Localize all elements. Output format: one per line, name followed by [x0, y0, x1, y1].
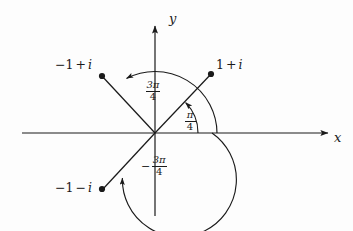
arc-minus-3pi-over-4	[122, 133, 236, 231]
angle-sign: −	[141, 161, 150, 172]
fraction: π 4	[185, 110, 196, 132]
fraction: 3π 4	[146, 80, 161, 102]
point-label-imag: i	[238, 57, 242, 72]
point-label-op: +	[226, 57, 236, 72]
fraction-numerator: 3π	[146, 80, 161, 91]
point-label-one-plus-i: 1+i	[216, 59, 242, 72]
fraction-denominator: 4	[149, 92, 157, 103]
y-axis-label: y	[169, 12, 176, 25]
fraction-numerator: π	[186, 110, 195, 121]
dot-one-plus-i	[208, 71, 214, 77]
dot-minus-one-minus-i	[99, 186, 105, 192]
angle-label-pi-over-4: π 4	[183, 110, 196, 132]
point-label-minus-one-plus-i: −1+i	[55, 59, 92, 72]
fraction-denominator: 4	[155, 167, 163, 178]
angle-label-minus-3pi-over-4: − 3π 4	[141, 155, 167, 177]
fraction-numerator: 3π	[152, 155, 167, 166]
point-label-real: −1	[55, 57, 73, 72]
argand-diagram-figure: y x −1+i 1+i −1−i 3π 4 π 4 − 3π 4	[0, 0, 353, 231]
angle-label-3pi-over-4: 3π 4	[144, 80, 160, 102]
diagram-canvas	[0, 0, 353, 231]
point-label-real: 1	[216, 57, 224, 72]
dot-minus-one-plus-i	[99, 73, 105, 79]
fraction: 3π 4	[152, 155, 167, 177]
point-label-minus-one-minus-i: −1−i	[55, 182, 92, 195]
arc-3pi-over-4	[127, 71, 218, 133]
point-label-imag: i	[88, 57, 92, 72]
point-label-imag: i	[88, 180, 92, 195]
fraction-denominator: 4	[186, 122, 194, 133]
point-label-op: +	[75, 57, 85, 72]
x-axis-label: x	[334, 131, 341, 144]
point-label-real: −1	[55, 180, 73, 195]
point-label-op: −	[75, 180, 85, 195]
